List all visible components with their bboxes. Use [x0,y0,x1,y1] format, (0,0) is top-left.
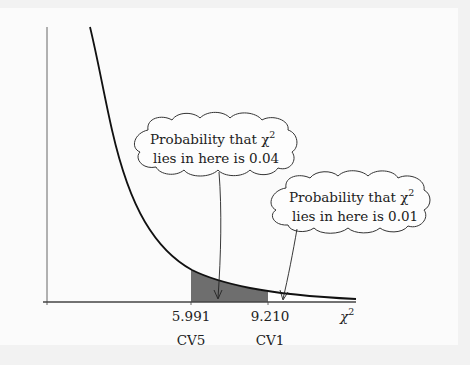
callout-2-line-1: Probability that χ2 [289,187,414,205]
tick-label-cv5-name: CV5 [177,332,206,348]
tick-label-cv1-name: CV1 [256,332,285,348]
callout-2-arrow [283,229,297,299]
x-axis-label: χ2 [339,306,354,324]
callout-1-arrow [218,172,221,298]
chi-squared-diagram: Probability that χ2 lies in here is 0.04… [0,0,470,365]
tick-label-cv1-value: 9.210 [251,308,290,324]
callout-cloud-1: Probability that χ2 lies in here is 0.04 [134,112,296,176]
callout-1-line-1: Probability that χ2 [150,129,275,147]
callout-1-line-2: lies in here is 0.04 [153,150,279,166]
callout-cloud-2: Probability that χ2 lies in here is 0.01 [271,171,430,234]
tick-label-cv5-value: 5.991 [172,308,211,324]
callout-2-line-2: lies in here is 0.01 [292,208,418,224]
